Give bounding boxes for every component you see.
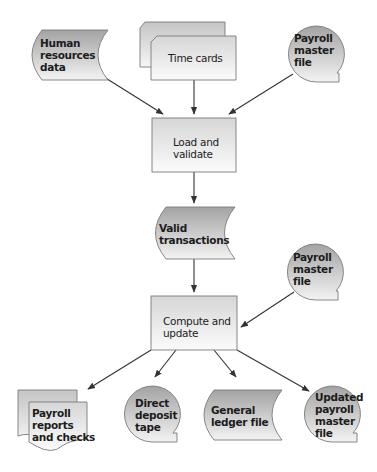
- general-ledger-label-line: ledger file: [211, 416, 268, 428]
- direct-deposit-label-line: deposit: [135, 409, 177, 421]
- direct-deposit-label: Direct deposit tape: [135, 397, 177, 433]
- updated-payroll-label-line: file: [315, 427, 363, 439]
- payroll-master-mid-label: Payroll master file: [293, 251, 333, 287]
- compute-update-label-line: update: [163, 327, 231, 339]
- time-cards-label-line: Time cards: [168, 52, 223, 64]
- general-ledger-label: General ledger file: [211, 404, 268, 428]
- direct-deposit-label-line: Direct: [135, 397, 177, 409]
- payroll-master-mid-label-line: Payroll: [293, 251, 333, 263]
- general-ledger-label-line: General: [211, 404, 268, 416]
- hr-data-label: Human resources data: [40, 37, 95, 73]
- hr-data-label-line: Human: [40, 37, 95, 49]
- arrow-compute-to-deposit: [155, 350, 176, 377]
- arrow-hr-to-load: [104, 77, 163, 114]
- direct-deposit-label-line: tape: [135, 421, 177, 433]
- load-validate-label: Load and validate: [173, 136, 219, 160]
- arrow-compute-to-updated: [237, 350, 309, 391]
- compute-update-label: Compute and update: [163, 315, 231, 339]
- compute-update-label-line: Compute and: [163, 315, 231, 327]
- updated-payroll-label-line: master: [315, 415, 363, 427]
- payroll-master-top-label: Payroll master file: [294, 32, 334, 68]
- arrow-compute-to-ledger: [214, 350, 236, 377]
- payroll-reports-label-line: and checks: [32, 431, 95, 443]
- time-cards-label: Time cards: [168, 52, 223, 64]
- updated-payroll-label: Updated payroll master file: [315, 391, 363, 439]
- payroll-master-top-label-line: file: [294, 56, 334, 68]
- load-validate-label-line: validate: [173, 148, 219, 160]
- updated-payroll-label-line: payroll: [315, 403, 363, 415]
- payroll-master-top-label-line: Payroll: [294, 32, 334, 44]
- load-validate-label-line: Load and: [173, 136, 219, 148]
- payroll-master-mid-label-line: master: [293, 263, 333, 275]
- arrow-payroll-top-to-load: [229, 74, 293, 114]
- arrow-compute-to-reports: [88, 350, 151, 389]
- payroll-reports-label: Payroll reports and checks: [32, 407, 95, 443]
- valid-transactions-label-line: Valid: [159, 222, 229, 234]
- arrow-payroll-mid-to-compute: [241, 292, 294, 327]
- payroll-master-top-label-line: master: [294, 44, 334, 56]
- valid-transactions-label-line: transactions: [159, 234, 229, 246]
- hr-data-label-line: data: [40, 61, 95, 73]
- hr-data-label-line: resources: [40, 49, 95, 61]
- payroll-master-mid-label-line: file: [293, 275, 333, 287]
- payroll-reports-label-line: Payroll: [32, 407, 95, 419]
- payroll-reports-label-line: reports: [32, 419, 95, 431]
- valid-transactions-label: Valid transactions: [159, 222, 229, 246]
- updated-payroll-label-line: Updated: [315, 391, 363, 403]
